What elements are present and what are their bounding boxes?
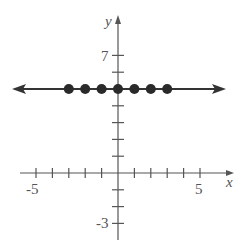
data-point — [129, 84, 139, 94]
x-axis-label: x — [225, 174, 233, 190]
data-point — [113, 84, 123, 94]
data-point — [80, 84, 90, 94]
coordinate-plane: y x -5 5 7 -3 — [0, 0, 249, 248]
y-axis-label: y — [103, 13, 112, 29]
y-tick-label-7: 7 — [101, 48, 109, 64]
y-tick-label-neg3: -3 — [96, 215, 109, 231]
data-point — [97, 84, 107, 94]
x-tick-label-5: 5 — [195, 181, 203, 197]
x-tick-label-neg5: -5 — [26, 181, 39, 197]
data-point — [162, 84, 172, 94]
axes — [20, 15, 234, 240]
data-point — [64, 84, 74, 94]
y-axis-arrow-icon — [115, 15, 121, 24]
data-point — [146, 84, 156, 94]
